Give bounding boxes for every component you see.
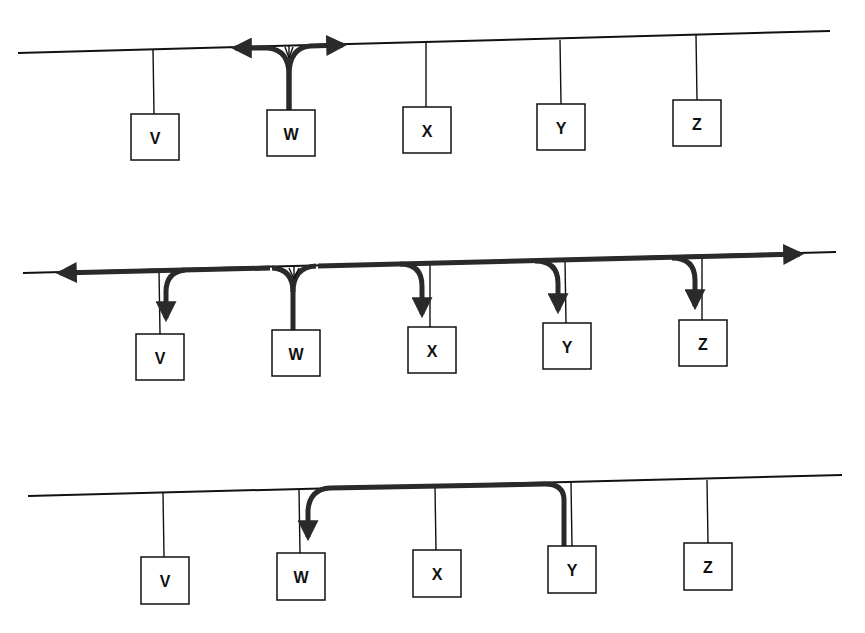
drop-x [435, 487, 436, 550]
node-label: Z [692, 116, 702, 133]
bus-topology-diagram: V W X Y Z [0, 0, 865, 633]
node-label: X [422, 123, 433, 140]
node-x: X [413, 550, 461, 597]
node-v: V [141, 557, 189, 604]
node-label: Z [698, 336, 708, 353]
node-z: Z [673, 100, 721, 146]
node-y: Y [548, 546, 596, 593]
drop-y [565, 261, 566, 323]
drop-v [163, 493, 164, 557]
drop-z [707, 480, 708, 543]
node-v: V [136, 334, 184, 380]
node-label: V [150, 130, 161, 147]
node-x: X [408, 327, 456, 373]
drop-v [153, 49, 154, 114]
drop-v [159, 270, 160, 334]
drop-z [696, 35, 697, 100]
node-w: W [277, 553, 325, 600]
node-y: Y [537, 104, 585, 150]
node-label: W [283, 126, 299, 143]
node-label: V [160, 573, 171, 590]
panel-top: V W X Y Z [18, 31, 830, 160]
drop-y [560, 40, 561, 104]
node-z: Z [684, 543, 732, 590]
node-w: W [267, 110, 315, 156]
node-z: Z [679, 320, 727, 366]
node-w: W [272, 330, 320, 376]
node-label: Z [703, 559, 713, 576]
node-label: W [288, 346, 304, 363]
node-y: Y [543, 323, 591, 369]
drop-y [571, 483, 572, 546]
panel-bottom: V W X Y Z [28, 475, 842, 604]
node-label: X [432, 566, 443, 583]
node-label: V [155, 350, 166, 367]
bus-line [18, 31, 830, 53]
node-v: V [131, 114, 179, 160]
node-label: Y [556, 120, 567, 137]
panel-middle: V W X Y Z [23, 252, 836, 380]
node-label: W [293, 569, 309, 586]
node-x: X [403, 107, 451, 153]
node-label: Y [567, 562, 578, 579]
node-label: Y [562, 339, 573, 356]
drop-w [299, 490, 300, 553]
node-label: X [427, 343, 438, 360]
